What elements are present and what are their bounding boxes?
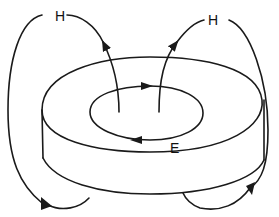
h-field-line-right-outer [177, 20, 268, 188]
h-field-line-left [103, 42, 119, 112]
disk-left-side [42, 110, 43, 158]
label-h-left: H [55, 9, 65, 23]
h-field-line-left-return [48, 198, 89, 209]
disk-bottom-edge [43, 158, 264, 194]
diagram-canvas [0, 0, 279, 217]
label-h-right: H [208, 13, 218, 27]
arrowhead-e-bottom [130, 136, 142, 144]
h-field-line-right [159, 42, 177, 112]
disk-top-outer-edge [42, 57, 262, 152]
h-field-line-left-outer [8, 15, 103, 203]
e-field-loop [90, 86, 203, 140]
label-e: E [170, 141, 179, 155]
arrowhead-h-right-return [246, 182, 255, 195]
arrowhead-e-top [141, 82, 153, 90]
toroid-field-diagram: H H E [0, 0, 279, 217]
arrowhead-h-left-return [41, 197, 52, 210]
